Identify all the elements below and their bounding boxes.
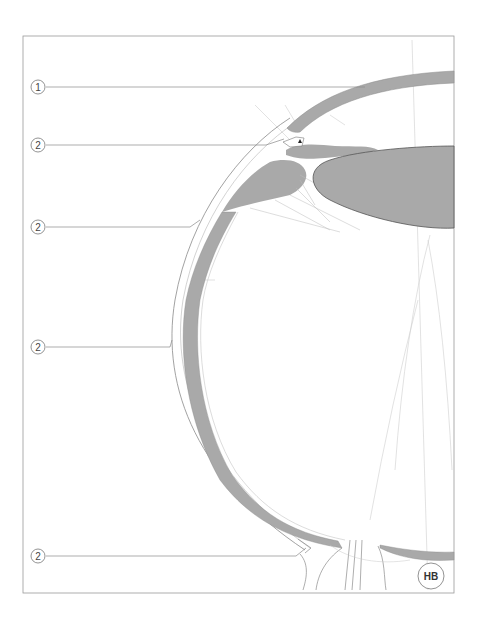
cornea [287,71,454,132]
drawing-frame [23,36,454,593]
retina-inner-line [201,212,345,540]
eye-cross-section-diagram: 1 2 2 2 2 HB [0,0,477,624]
svg-text:2: 2 [35,551,41,562]
svg-text:2: 2 [35,222,41,233]
callout-1: 1 [31,80,45,94]
callout-2-limbus: 2 [31,138,45,152]
svg-text:HB: HB [424,571,438,582]
svg-text:2: 2 [35,342,41,353]
callout-2-sclera-posterior: 2 [31,549,45,563]
svg-text:1: 1 [35,82,41,93]
callout-2-sclera-upper: 2 [31,220,45,234]
callout-2-sclera-middle: 2 [31,340,45,354]
optic-nerve [298,539,386,590]
hb-badge: HB [418,563,444,589]
svg-text:2: 2 [35,140,41,151]
lens [313,146,454,228]
choroid-band [183,212,342,548]
guide-lines [195,40,452,590]
posterior-retina-band [380,545,454,561]
